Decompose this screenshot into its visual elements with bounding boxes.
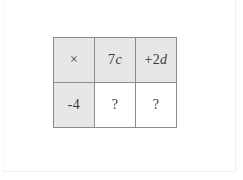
answer-cell-second[interactable]: ? xyxy=(136,83,177,128)
column-header-second-variable: d xyxy=(160,52,167,67)
operator-symbol-cell: × xyxy=(54,38,95,83)
worksheet-card: × 7c +2d -4 ? ? xyxy=(3,0,236,172)
table-row: -4 ? ? xyxy=(54,83,177,128)
row-header-first: -4 xyxy=(54,83,95,128)
table-header-row: × 7c +2d xyxy=(54,38,177,83)
column-header-second: +2d xyxy=(136,38,177,83)
box-method-table: × 7c +2d -4 ? ? xyxy=(53,37,177,128)
column-header-second-coefficient: +2 xyxy=(145,52,161,67)
column-header-first: 7c xyxy=(95,38,136,83)
answer-cell-first[interactable]: ? xyxy=(95,83,136,128)
column-header-first-variable: c xyxy=(115,52,122,67)
multiplication-box-grid: × 7c +2d -4 ? ? xyxy=(53,37,177,128)
